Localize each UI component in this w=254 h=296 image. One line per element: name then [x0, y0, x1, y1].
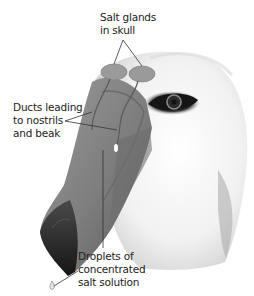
salt-gland-diagram: Salt glands in skull Ducts leading to no…: [0, 0, 254, 296]
label-salt-glands: Salt glands in skull: [100, 11, 156, 37]
label-ducts: Ducts leading to nostrils and beak: [13, 101, 83, 140]
eye: [144, 91, 200, 115]
label-droplets: Droplets of concentrated salt solution: [78, 250, 145, 289]
